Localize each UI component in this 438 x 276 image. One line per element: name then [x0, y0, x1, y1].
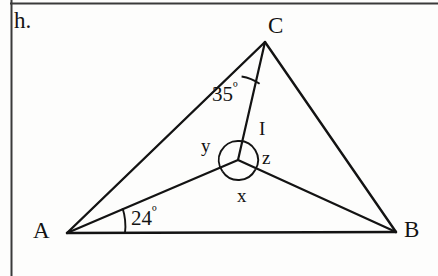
side-AB [67, 232, 396, 233]
angle-label-x: x [237, 186, 247, 205]
angle-a-degree-symbol: º [152, 204, 157, 220]
angle-label-z: z [262, 148, 270, 167]
item-letter: h. [14, 9, 31, 32]
angle-measure-at-C: 35º [212, 84, 238, 105]
side-BC [265, 42, 396, 232]
vertex-label-C: C [268, 14, 283, 37]
angle-c-value: 35 [212, 82, 233, 106]
angle-c-degree-symbol: º [233, 80, 238, 96]
geometry-figure [0, 0, 438, 276]
vertex-label-B: B [404, 218, 419, 241]
angle-arc-x [222, 170, 255, 180]
vertex-label-A: A [33, 219, 50, 242]
cevian-CI [238, 42, 265, 160]
vertex-label-I: I [259, 119, 265, 138]
angle-measure-at-A: 24º [131, 208, 157, 229]
angle-a-value: 24 [131, 206, 152, 230]
figure-page: h. A B C I x y z 35º 24º [0, 0, 438, 276]
side-AC [67, 42, 265, 233]
angle-label-y: y [201, 136, 211, 155]
angle-arc-at-A [123, 208, 126, 233]
